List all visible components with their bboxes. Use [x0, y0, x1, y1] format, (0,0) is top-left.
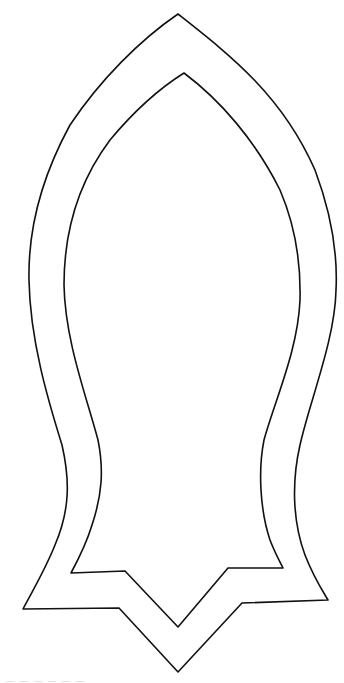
lancet-outline-drawing: [0, 0, 344, 683]
inner-outline: [64, 73, 300, 627]
outer-outline: [23, 14, 336, 672]
cut-off-caption: — — — — — —: [6, 676, 85, 683]
